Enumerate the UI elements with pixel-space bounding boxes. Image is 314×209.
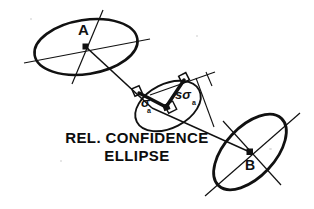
caption-line-1: REL. CONFIDENCE xyxy=(57,129,217,146)
point-a-label: A xyxy=(78,22,89,37)
scan-speck xyxy=(196,35,198,37)
s-sigma-b-label: sσ xyxy=(175,88,191,101)
figure-canvas: A B σ a sσ a REL. CONFIDENCE ELLIPSE xyxy=(0,0,314,209)
ellipse-a-major-axis-line xyxy=(24,39,150,63)
point-b-label: B xyxy=(245,158,255,172)
diagram-svg xyxy=(0,0,314,209)
s-sigma-b-subscript: a xyxy=(192,99,196,106)
caption-line-2: ELLIPSE xyxy=(57,147,217,164)
ellipse-b-center-point xyxy=(247,149,254,156)
sigma-a-subscript: a xyxy=(147,107,151,114)
scan-speck xyxy=(30,18,32,20)
scan-speck xyxy=(269,148,272,150)
figure-caption: REL. CONFIDENCE ELLIPSE xyxy=(57,129,217,164)
scan-speck xyxy=(60,160,62,162)
